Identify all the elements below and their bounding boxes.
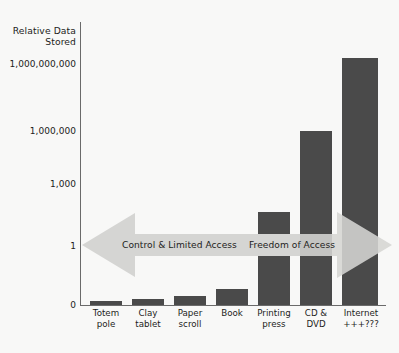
- y-axis-tick-labels: 1,000,000,000 1,000,000 1,000 1 0: [0, 0, 76, 353]
- x-label-paper-scroll: Paper scroll: [166, 308, 214, 330]
- x-label-clay-tablet: Clay tablet: [124, 308, 172, 330]
- bar-paper-scroll: [174, 296, 206, 305]
- bar-internet: [342, 58, 378, 305]
- bar-column-printing-press: [258, 0, 290, 305]
- x-label-paper-scroll-line1: Paper: [166, 308, 214, 319]
- x-label-cd-dvd-line2: DVD: [292, 319, 340, 330]
- x-label-cd-dvd-line1: CD &: [292, 308, 340, 319]
- x-axis-tick-labels: Totem pole Clay tablet Paper scroll Book…: [80, 308, 392, 350]
- bar-column-book: [216, 0, 248, 305]
- bar-column-internet: [342, 0, 378, 305]
- x-label-clay-tablet-line2: tablet: [124, 319, 172, 330]
- bar-printing-press: [258, 212, 290, 305]
- bar-clay-tablet: [132, 299, 164, 305]
- x-label-internet: Internet +++???: [334, 308, 388, 330]
- bar-column-paper-scroll: [174, 0, 206, 305]
- control-limited-access-label: Control & Limited Access: [122, 240, 237, 250]
- bar-column-cd-dvd: [300, 0, 332, 305]
- x-label-totem-pole-line2: pole: [82, 319, 130, 330]
- x-label-totem-pole-line1: Totem: [82, 308, 130, 319]
- relative-data-stored-chart: Relative Data Stored 1,000,000,000 1,000…: [0, 0, 399, 353]
- x-label-totem-pole: Totem pole: [82, 308, 130, 330]
- x-axis-line: [80, 305, 386, 306]
- bar-cd-dvd: [300, 131, 332, 305]
- x-label-paper-scroll-line2: scroll: [166, 319, 214, 330]
- x-label-clay-tablet-line1: Clay: [124, 308, 172, 319]
- x-label-internet-line2: +++???: [334, 319, 388, 330]
- y-tick-label-1: 1: [4, 241, 76, 251]
- bar-book: [216, 289, 248, 305]
- freedom-of-access-label: Freedom of Access: [249, 240, 335, 250]
- y-tick-label-1000000: 1,000,000: [4, 126, 76, 136]
- bar-totem-pole: [90, 301, 122, 305]
- y-tick-label-1000: 1,000: [4, 179, 76, 189]
- bar-column-totem-pole: [90, 0, 122, 305]
- bars-layer: [80, 0, 392, 305]
- bar-column-clay-tablet: [132, 0, 164, 305]
- x-label-internet-line1: Internet: [334, 308, 388, 319]
- x-label-cd-dvd: CD & DVD: [292, 308, 340, 330]
- y-tick-label-0: 0: [4, 300, 76, 310]
- y-tick-label-1000000000: 1,000,000,000: [4, 59, 76, 69]
